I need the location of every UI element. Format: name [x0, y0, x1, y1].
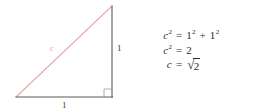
triangle-diagram-panel: c 1 1 — [0, 0, 132, 112]
equation-lhs: c2 — [155, 43, 172, 58]
equation-lhs-variable: c — [163, 44, 168, 56]
equation-rhs: 12+12 — [186, 28, 219, 43]
equation-operator: = — [172, 57, 186, 72]
vertical-leg-label: 1 — [117, 44, 122, 53]
hypotenuse-line — [16, 6, 112, 97]
geometry-figure: c 1 1 c2 = 12+12 c2 = 2 c = √2 — [0, 0, 261, 112]
equation-operator: = — [172, 28, 186, 43]
equation-lhs-variable: c — [167, 58, 172, 70]
equation-lhs-variable: c — [163, 29, 168, 41]
equation-rhs-term-exponent: 2 — [216, 28, 220, 36]
horizontal-leg-label: 1 — [62, 101, 67, 110]
equation-lhs: c2 — [155, 28, 172, 43]
hypotenuse-label: c — [50, 44, 54, 53]
equation-rhs-join: + — [196, 29, 210, 41]
equations-panel: c2 = 12+12 c2 = 2 c = √2 — [155, 28, 261, 73]
equation-rhs-term-base: 1 — [186, 29, 192, 41]
equation-row: c2 = 12+12 — [155, 28, 261, 43]
right-angle-marker-icon — [104, 89, 112, 97]
equation-rhs: 2 — [186, 43, 192, 58]
equation-rhs-term-base: 1 — [210, 29, 216, 41]
equation-operator: = — [172, 43, 186, 58]
equation-row: c = √2 — [155, 57, 261, 73]
equation-lhs: c — [155, 57, 172, 72]
radicand-value: 2 — [193, 58, 200, 74]
equation-rhs-radical: √2 — [187, 57, 200, 73]
triangle-svg — [0, 0, 132, 112]
equation-row: c2 = 2 — [155, 43, 261, 58]
